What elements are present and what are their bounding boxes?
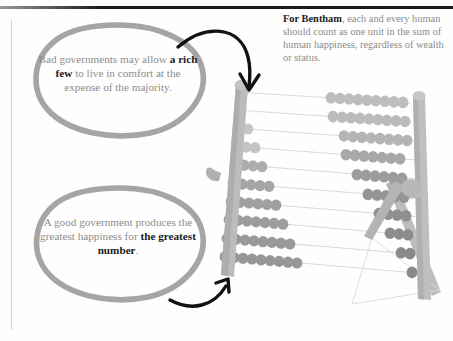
bentham-annotation-text: For Bentham, each and every human should…	[283, 12, 446, 64]
bubble1-seg-3: to live in comfort at the expense of the…	[64, 67, 180, 93]
bubble-text-good-government: A good government produces the greatest …	[40, 215, 196, 257]
bubble-text-bad-governments: Bad governments may allow a rich few to …	[37, 52, 199, 94]
bubble2-seg-4: .	[136, 244, 139, 256]
bubble1-seg-0: Bad governments	[39, 53, 120, 65]
bentham-lead-bold: For Bentham	[283, 13, 342, 24]
bubble2-seg-0: A good government	[44, 216, 136, 228]
arrow-bottom-to-abacus	[170, 279, 229, 306]
bubble1-seg-1: may allow	[120, 53, 170, 65]
bubble2-seg-2: happiness for	[78, 230, 141, 242]
page-canvas: For Bentham, each and every human should…	[0, 0, 453, 341]
